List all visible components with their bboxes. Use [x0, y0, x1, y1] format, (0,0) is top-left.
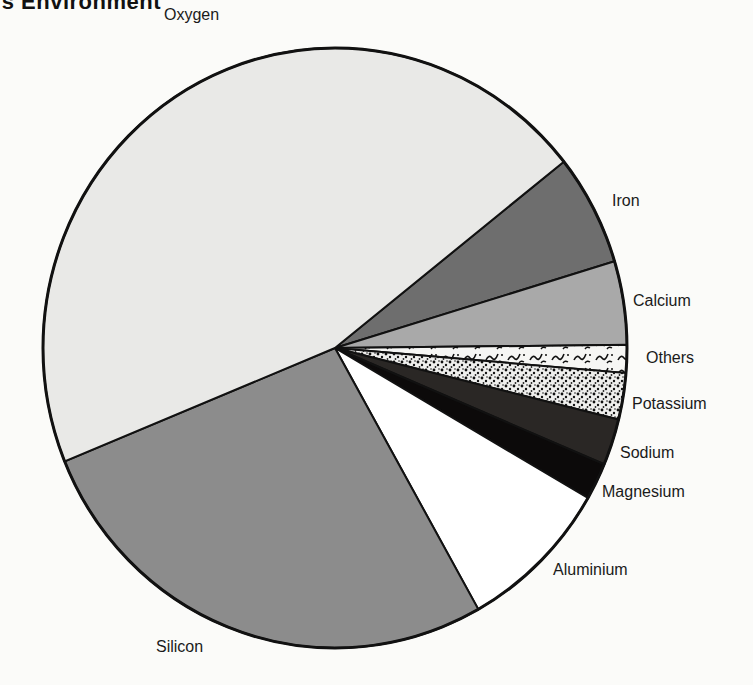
- pie-chart: [0, 0, 753, 685]
- label-iron: Iron: [612, 192, 640, 210]
- label-magnesium: Magnesium: [602, 483, 685, 501]
- label-oxygen: Oxygen: [164, 6, 219, 24]
- label-sodium: Sodium: [620, 444, 674, 462]
- label-calcium: Calcium: [633, 292, 691, 310]
- label-silicon: Silicon: [156, 638, 203, 656]
- pie-slices: [43, 48, 627, 648]
- label-others: Others: [646, 349, 694, 367]
- label-potassium: Potassium: [632, 395, 707, 413]
- label-aluminium: Aluminium: [553, 561, 628, 579]
